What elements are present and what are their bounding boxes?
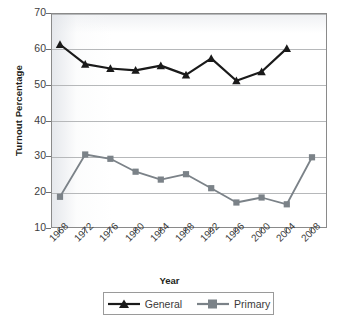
y-tick-60: 60 bbox=[2, 42, 46, 54]
datapoint-primary-1992 bbox=[208, 185, 214, 191]
chart-legend: General Primary bbox=[103, 292, 274, 315]
y-tick-10: 10 bbox=[2, 221, 46, 233]
y-tickmark-50 bbox=[46, 85, 51, 86]
datapoint-primary-1980 bbox=[133, 169, 139, 175]
datapoint-primary-2008 bbox=[309, 154, 315, 160]
datapoint-primary-1984 bbox=[158, 177, 164, 183]
y-tickmark-40 bbox=[46, 121, 51, 122]
y-tickmark-20 bbox=[46, 192, 51, 193]
series-line-primary bbox=[60, 155, 312, 205]
datapoint-primary-1968 bbox=[57, 194, 63, 200]
y-tickmark-60 bbox=[46, 49, 51, 50]
series-layer bbox=[52, 14, 328, 229]
y-tick-30: 30 bbox=[2, 149, 46, 161]
datapoint-general-2004 bbox=[283, 44, 291, 52]
datapoint-primary-1996 bbox=[233, 199, 239, 205]
legend-label-primary: Primary bbox=[234, 298, 270, 310]
y-tickmark-10 bbox=[46, 228, 51, 229]
plot-area bbox=[51, 13, 327, 228]
y-tick-40: 40 bbox=[2, 114, 46, 126]
legend-marker-triangle-icon bbox=[107, 298, 141, 310]
datapoint-general-1992 bbox=[207, 54, 215, 62]
legend-label-general: General bbox=[145, 298, 182, 310]
datapoint-primary-2000 bbox=[259, 194, 265, 200]
y-tickmark-30 bbox=[46, 156, 51, 157]
series-line-general bbox=[60, 45, 287, 81]
datapoint-primary-1976 bbox=[107, 156, 113, 162]
legend-item-general: General bbox=[107, 298, 182, 310]
y-tick-70: 70 bbox=[2, 6, 46, 18]
legend-item-primary: Primary bbox=[196, 298, 270, 310]
datapoint-primary-1988 bbox=[183, 171, 189, 177]
x-axis-title: Year bbox=[0, 275, 339, 286]
datapoint-primary-1972 bbox=[82, 151, 88, 157]
y-tickmark-70 bbox=[46, 13, 51, 14]
datapoint-general-1968 bbox=[56, 40, 64, 48]
y-tick-50: 50 bbox=[2, 78, 46, 90]
datapoint-primary-2004 bbox=[284, 201, 290, 207]
chart-figure: Turnout Percentage 70605040302010 196819… bbox=[0, 0, 339, 324]
y-tick-20: 20 bbox=[2, 185, 46, 197]
legend-marker-square-icon bbox=[196, 298, 230, 310]
